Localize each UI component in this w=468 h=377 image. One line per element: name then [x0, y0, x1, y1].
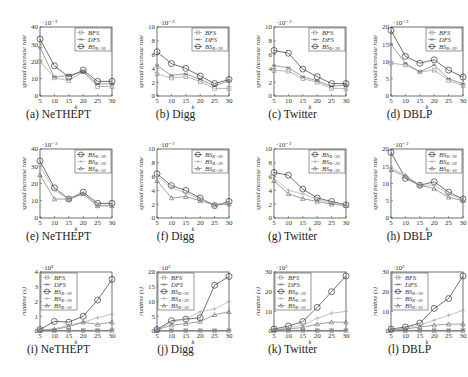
y-axis-label: spread increase rate	[371, 35, 378, 88]
x-tick-label: 30	[109, 332, 117, 340]
y-tick-label: 8	[152, 159, 156, 167]
x-tick-label: 5	[155, 219, 159, 227]
x-tick-label: 15	[416, 219, 424, 227]
legend-label: DFS	[170, 281, 184, 288]
axis-multiplier: ·10⁻²	[42, 141, 57, 149]
series-line	[274, 322, 346, 330]
legend-label: DFS	[204, 36, 218, 43]
y-tick-label: 8	[152, 37, 156, 45]
y-tick-label: 10	[382, 58, 390, 66]
x-tick-label: 15	[182, 332, 190, 340]
x-tick-label: 10	[402, 97, 410, 105]
y-tick-label: 15	[382, 163, 390, 171]
chart-panel-l: ·10²010203051015202530kruntime (s)BFSDFS…	[351, 245, 468, 345]
y-tick-label: 30	[382, 268, 390, 276]
series-line	[157, 177, 229, 205]
x-tick-label: 30	[460, 97, 468, 105]
y-axis-label: spread increase rate	[137, 157, 144, 210]
y-tick-label: 10	[148, 145, 156, 153]
y-tick-label: 40	[31, 145, 39, 153]
marker-plus-icon	[301, 192, 305, 196]
y-tick-label: 20	[382, 288, 390, 296]
chart-caption: (l) DBLP	[351, 343, 468, 355]
x-tick-label: 10	[168, 97, 176, 105]
marker-plus-icon	[344, 309, 348, 313]
series-bfs	[155, 72, 231, 90]
series-bsb10	[155, 310, 231, 332]
legend: BFSDFSBSB=30	[309, 28, 345, 51]
axis-multiplier: ·10⁻²	[159, 141, 174, 149]
line-chart: ·10⁻²024681051015202530kspread increase …	[117, 0, 234, 110]
series-line	[157, 181, 229, 205]
y-axis-label: spread increase rate	[137, 35, 144, 88]
x-tick-label: 30	[343, 97, 351, 105]
chart-caption: (d) DBLP	[351, 108, 468, 120]
legend-label: BFS	[171, 274, 183, 281]
x-tick-label: 15	[416, 332, 424, 340]
y-tick-label: 15	[148, 283, 156, 291]
x-tick-label: 30	[109, 97, 117, 105]
x-tick-label: 5	[272, 97, 276, 105]
x-tick-label: 30	[226, 97, 234, 105]
y-tick-label: 10	[31, 75, 39, 83]
x-tick-label: 5	[155, 332, 159, 340]
chart-panel-d: ·10⁻²0510152051015202530kspread increase…	[351, 0, 468, 110]
line-chart: ·10⁻²024681051015202530kspread increase …	[234, 0, 351, 110]
y-axis-label: runtime (s)	[254, 287, 262, 316]
series-line	[391, 324, 463, 330]
axis-multiplier: ·10²	[393, 264, 404, 272]
axis-multiplier: ·10¹	[42, 264, 53, 272]
legend-label: DFS	[321, 36, 335, 43]
y-tick-label: 5	[386, 75, 390, 83]
marker-plus-icon	[446, 313, 450, 317]
x-tick-label: 30	[460, 332, 468, 340]
marker-plus-icon	[461, 308, 465, 312]
series-line	[157, 74, 229, 88]
line-chart: ·10⁻²01020304051015202530kspread increas…	[0, 122, 117, 232]
chart-panel-f: ·10⁻²024681051015202530kspread increase …	[117, 122, 234, 232]
y-tick-label: 10	[265, 145, 273, 153]
y-tick-label: 10	[265, 23, 273, 31]
legend: BFSDFSBSB=30	[192, 28, 228, 51]
chart-caption: (c) Twitter	[234, 108, 351, 120]
series-line	[274, 178, 346, 205]
legend: BFSDFSBSB=30BSB=20BSB=10	[41, 273, 77, 310]
x-tick-label: 15	[65, 219, 73, 227]
x-tick-label: 25	[328, 219, 336, 227]
y-tick-label: 10	[382, 308, 390, 316]
y-tick-label: 3	[35, 283, 39, 291]
axis-multiplier: ·10⁻²	[42, 19, 57, 27]
y-tick-label: 2	[269, 201, 273, 209]
series-bsb30	[154, 171, 232, 209]
series-dfs	[155, 64, 231, 87]
series-line	[391, 310, 463, 329]
x-tick-label: 10	[51, 219, 59, 227]
x-tick-label: 15	[299, 219, 307, 227]
x-tick-label: 5	[272, 219, 276, 227]
y-tick-label: 2	[35, 298, 39, 306]
chart-caption: (g) Twitter	[234, 230, 351, 242]
y-tick-label: 10	[148, 298, 156, 306]
axis-multiplier: ·10²	[159, 264, 170, 272]
chart-panel-c: ·10⁻²024681051015202530kspread increase …	[234, 0, 351, 110]
marker-plus-icon	[432, 318, 436, 322]
chart-panel-i: ·10¹0123451015202530kruntime (s)BFSDFSBS…	[0, 245, 117, 345]
x-tick-label: 15	[182, 97, 190, 105]
y-tick-label: 10	[265, 308, 273, 316]
x-tick-label: 15	[182, 219, 190, 227]
x-tick-label: 5	[272, 332, 276, 340]
x-tick-label: 25	[211, 97, 219, 105]
x-tick-label: 15	[416, 97, 424, 105]
x-tick-label: 20	[197, 332, 205, 340]
legend: BSB=30BSB=20BSB=10	[75, 150, 111, 173]
y-tick-label: 30	[31, 163, 39, 171]
y-tick-label: 1	[35, 313, 39, 321]
series-line	[40, 175, 112, 206]
chart-panel-g: ·10⁻²024681051015202530kspread increase …	[234, 122, 351, 232]
chart-caption: (e) NeTHEPT	[0, 230, 117, 242]
y-tick-label: 2	[269, 79, 273, 87]
chart-panel-e: ·10⁻²01020304051015202530kspread increas…	[0, 122, 117, 232]
marker-star-icon	[432, 63, 436, 66]
chart-panel-a: ·10⁻²01020304051015202530kspread increas…	[0, 0, 117, 110]
x-tick-label: 15	[65, 97, 73, 105]
